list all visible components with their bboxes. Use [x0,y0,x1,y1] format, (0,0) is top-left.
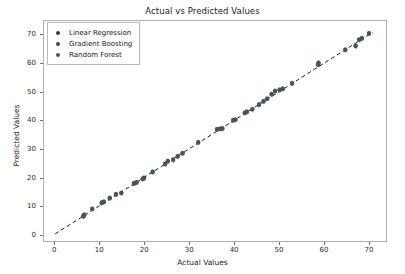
y-tick-label: 0 [32,231,36,239]
legend-item-label: Gradient Boosting [69,40,132,48]
data-point [181,152,185,156]
data-point [134,181,138,185]
x-axis-label: Actual Values [0,258,405,267]
figure-canvas: Actual vs Predicted Values 0102030405060… [0,0,405,274]
data-point [171,158,175,162]
data-point [269,93,273,97]
data-point [166,160,170,164]
x-tick-mark [369,242,370,245]
x-tick-label: 0 [52,246,56,254]
data-point [151,171,155,175]
chart-title: Actual vs Predicted Values [0,6,405,16]
legend-item[interactable]: Linear Regression [53,27,132,38]
y-tick-label: 50 [27,88,36,96]
chart-legend[interactable]: Linear RegressionGradient BoostingRandom… [47,22,140,65]
y-tick-mark [40,120,43,121]
x-tick-mark [189,242,190,245]
y-tick-label: 10 [27,202,36,210]
data-point [233,118,237,122]
y-tick-mark [40,34,43,35]
data-point [316,61,320,65]
y-tick-label: 30 [27,145,36,153]
x-tick-label: 50 [275,246,284,254]
x-tick-label: 10 [95,246,104,254]
data-point [281,87,285,91]
y-axis-label: Predicted Values [12,76,21,196]
y-tick-mark [40,206,43,207]
y-tick-label: 40 [27,116,36,124]
legend-item-label: Random Forest [69,51,122,59]
data-point [273,90,277,94]
data-point [290,82,294,86]
x-tick-label: 30 [185,246,194,254]
y-tick-mark [40,92,43,93]
x-tick-mark [54,242,55,245]
data-point [257,103,261,107]
y-tick-mark [40,178,43,179]
x-tick-label: 20 [140,246,149,254]
data-point [176,155,180,159]
legend-marker-icon [56,31,60,35]
x-tick-mark [324,242,325,245]
data-point [196,141,200,145]
data-point [102,200,106,204]
x-tick-mark [234,242,235,245]
data-point [367,32,371,36]
data-point [343,48,347,52]
x-tick-mark [144,242,145,245]
legend-item[interactable]: Random Forest [53,49,132,60]
x-tick-mark [99,242,100,245]
y-tick-label: 20 [27,174,36,182]
x-tick-label: 70 [365,246,374,254]
data-point [261,100,265,104]
legend-item[interactable]: Gradient Boosting [53,38,132,49]
x-tick-mark [279,242,280,245]
x-tick-label: 60 [320,246,329,254]
data-point [245,110,249,114]
legend-item-label: Linear Regression [69,29,131,37]
data-point [119,192,123,196]
legend-marker-icon [56,42,60,46]
data-point [360,37,364,41]
legend-marker-icon [56,53,60,57]
data-point [114,193,118,197]
y-tick-mark [40,235,43,236]
y-tick-label: 60 [27,59,36,67]
data-point [90,207,94,211]
data-point [220,127,224,131]
y-tick-mark [40,63,43,64]
y-tick-label: 70 [27,30,36,38]
data-point [82,214,86,218]
data-point [108,197,112,201]
x-tick-label: 40 [230,246,239,254]
y-tick-mark [40,149,43,150]
data-point [265,97,269,101]
data-point [250,108,254,112]
data-point [354,44,358,48]
data-point [142,176,146,180]
